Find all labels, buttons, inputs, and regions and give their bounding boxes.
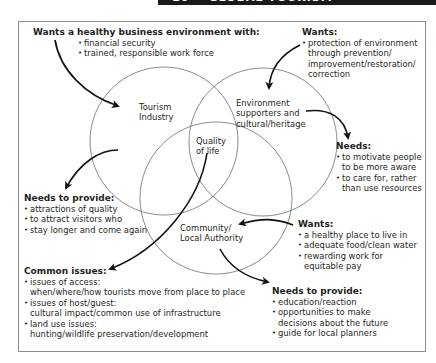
list-item: guide for local planners <box>272 328 388 338</box>
block-environment-wants: Wants: protection of environment through… <box>302 27 418 80</box>
arrow-community-wants <box>240 220 293 225</box>
block-tourism-needs: Needs to provide: attractions of quality… <box>24 193 147 235</box>
list-item: to care for, rather than use resources <box>336 173 422 194</box>
label-community: Community/ Local Authority <box>180 223 243 244</box>
block-community-wants: Wants: a healthy place to live in adequa… <box>298 219 417 272</box>
block-tourism-wants: Wants a healthy business environment wit… <box>33 27 260 59</box>
label-environment: Environment supporters and cultural/heri… <box>236 98 306 129</box>
list-item: financial security <box>78 38 260 48</box>
arrow-environment-needs <box>306 110 348 138</box>
label-quality-of-life: Quality of life <box>196 136 226 157</box>
heading-environment-wants: Wants: <box>302 27 418 38</box>
list-item: a healthy place to live in <box>298 230 417 240</box>
heading-community-needs: Needs to provide: <box>272 286 388 297</box>
list-item: issues of access: when/where/how tourist… <box>24 277 245 298</box>
list-item: to attract visitors who <box>24 214 147 224</box>
list-item: opportunities to make decisions about th… <box>272 307 388 328</box>
arrow-environment-wants <box>269 45 300 88</box>
heading-tourism-needs: Needs to provide: <box>24 193 147 204</box>
list-item: to motivate people to be more aware <box>336 152 422 173</box>
list-item: rewarding work for equitable pay <box>298 251 417 272</box>
label-tourism-industry: Tourism Industry <box>139 102 173 123</box>
heading-tourism-wants: Wants a healthy business environment wit… <box>33 27 260 38</box>
block-environment-needs: Needs: to motivate people to be more awa… <box>336 141 422 194</box>
list-item: protection of environment through preven… <box>302 38 418 80</box>
list-item: issues of host/guest: cultural impact/co… <box>24 298 245 319</box>
block-community-needs: Needs to provide: education/reaction opp… <box>272 286 388 339</box>
list-item: land use issues: hunting/wildlife preser… <box>24 319 245 340</box>
arrow-tourism-needs <box>66 150 118 188</box>
heading-community-wants: Wants: <box>298 219 417 230</box>
list-item: stay longer and come again <box>24 225 147 235</box>
list-item: trained, responsible work force <box>78 48 260 58</box>
heading-environment-needs: Needs: <box>336 141 422 152</box>
list-item: education/reaction <box>272 297 388 307</box>
list-item: adequate food/clean water <box>298 240 417 250</box>
block-common-issues: Common issues: issues of access: when/wh… <box>24 266 245 339</box>
heading-common-issues: Common issues: <box>24 266 245 277</box>
list-item: attractions of quality <box>24 204 147 214</box>
